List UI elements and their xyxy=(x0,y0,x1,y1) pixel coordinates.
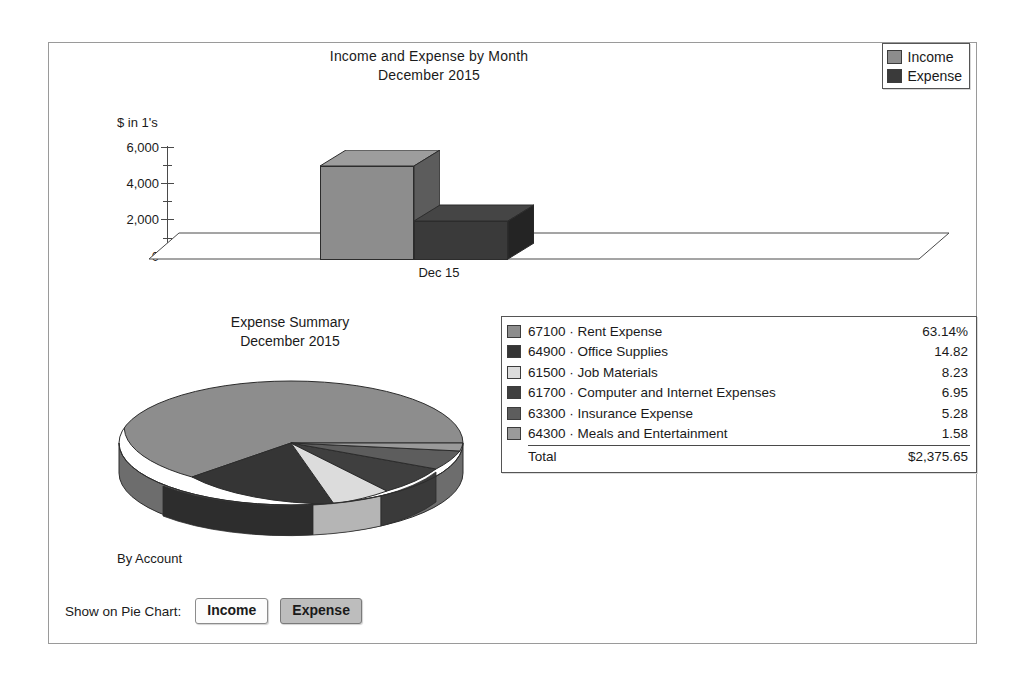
x-axis-tick-label: Dec 15 xyxy=(379,265,499,280)
bar-chart-title: Income and Expense by Month December 201… xyxy=(49,47,809,85)
income-expense-bar-chart: Income and Expense by Month December 201… xyxy=(49,43,978,293)
row-percent: 8.23 xyxy=(942,365,970,380)
legend-item-income: Income xyxy=(887,47,962,66)
row-swatch-rent-expense xyxy=(507,325,521,338)
bar-chart-legend: Income Expense xyxy=(882,43,970,89)
total-label: Total xyxy=(528,449,908,464)
y-axis-caption: $ in 1's xyxy=(117,115,158,130)
pie-chart-title-line1: Expense Summary xyxy=(231,314,349,330)
table-row: 61500 · Job Materials 8.23 xyxy=(507,362,970,383)
expense-pie-chart xyxy=(91,373,491,543)
chart-floor xyxy=(149,231,949,261)
pie-chart-title-line2: December 2015 xyxy=(240,333,340,349)
row-percent: 14.82 xyxy=(934,344,970,359)
y-axis-tick-3000 xyxy=(163,201,172,202)
legend-swatch-expense xyxy=(887,69,902,83)
table-row: 64900 · Office Supplies 14.82 xyxy=(507,342,970,363)
row-percent: 6.95 xyxy=(942,385,970,400)
table-row: 61700 · Computer and Internet Expenses 6… xyxy=(507,383,970,404)
y-axis-tick-5000 xyxy=(163,165,172,166)
row-percent: 5.28 xyxy=(942,406,970,421)
legend-label-income: Income xyxy=(908,50,954,64)
bar-expense-front xyxy=(415,222,508,260)
y-tick-label-2000: 2,000 xyxy=(101,213,159,226)
show-income-button[interactable]: Income xyxy=(195,598,268,624)
row-swatch-office-supplies xyxy=(507,345,521,358)
bar-expense xyxy=(414,204,534,260)
row-swatch-computer-internet xyxy=(507,386,521,399)
expense-summary-table: 67100 · Rent Expense 63.14% 64900 · Offi… xyxy=(501,316,977,473)
y-tick-label-6000: 6,000 xyxy=(101,141,159,154)
pie-chart-controls: Show on Pie Chart: Income Expense xyxy=(65,598,374,624)
row-account-name: 64900 · Office Supplies xyxy=(528,344,934,359)
show-expense-button[interactable]: Expense xyxy=(280,598,362,624)
legend-label-expense: Expense xyxy=(908,69,962,83)
row-account-name: 67100 · Rent Expense xyxy=(528,324,922,339)
table-row: 63300 · Insurance Expense 5.28 xyxy=(507,403,970,424)
show-on-pie-chart-label: Show on Pie Chart: xyxy=(65,604,181,619)
row-swatch-insurance-expense xyxy=(507,407,521,420)
y-axis-tick-2000 xyxy=(161,219,174,220)
table-row: 64300 · Meals and Entertainment 1.58 xyxy=(507,424,970,445)
table-row: 67100 · Rent Expense 63.14% xyxy=(507,321,970,342)
legend-swatch-income xyxy=(887,50,902,64)
row-account-name: 64300 · Meals and Entertainment xyxy=(528,426,942,441)
table-total-row: Total $2,375.65 xyxy=(528,445,970,467)
pie-chart-title: Expense Summary December 2015 xyxy=(145,313,435,351)
y-axis-tick-4000 xyxy=(161,183,174,184)
legend-item-expense: Expense xyxy=(887,66,962,85)
row-account-name: 61700 · Computer and Internet Expenses xyxy=(528,385,942,400)
report-frame: Income and Expense by Month December 201… xyxy=(48,42,977,644)
y-axis-tick-6000 xyxy=(161,147,174,148)
row-account-name: 63300 · Insurance Expense xyxy=(528,406,942,421)
total-value: $2,375.65 xyxy=(908,449,970,464)
row-account-name: 61500 · Job Materials xyxy=(528,365,942,380)
row-percent: 63.14% xyxy=(922,324,970,339)
y-tick-label-4000: 4,000 xyxy=(101,177,159,190)
bar-chart-title-line2: December 2015 xyxy=(378,67,480,83)
bar-chart-title-line1: Income and Expense by Month xyxy=(330,48,528,64)
bar-income-front xyxy=(321,167,414,260)
row-swatch-meals-entertainment xyxy=(507,427,521,440)
pie-footer-label: By Account xyxy=(117,551,182,566)
row-swatch-job-materials xyxy=(507,366,521,379)
row-percent: 1.58 xyxy=(942,426,970,441)
